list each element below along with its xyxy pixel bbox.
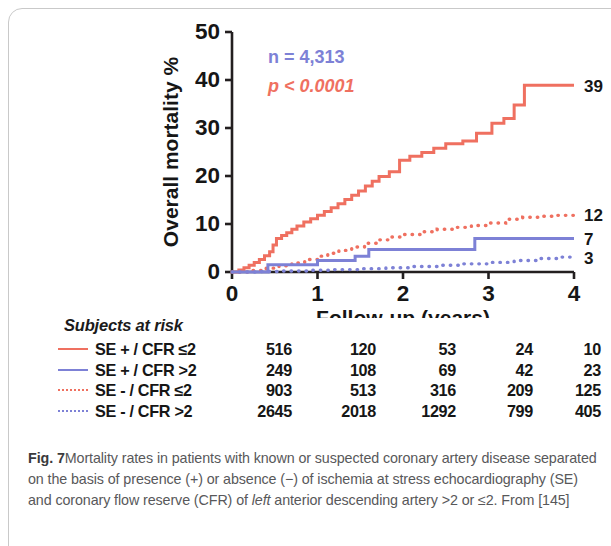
x-axis-tick-label: 1 bbox=[311, 281, 324, 306]
y-axis-tick-label: 30 bbox=[195, 115, 220, 140]
risk-row-value: 2018 bbox=[316, 402, 376, 421]
risk-row-line-swatch bbox=[58, 348, 88, 350]
subjects-at-risk-table: Subjects at risk SE + / CFR ≤25161205324… bbox=[0, 316, 611, 428]
risk-table-row: SE + / CFR >2249108694223 bbox=[0, 361, 611, 382]
risk-row-value: 209 bbox=[473, 381, 533, 400]
y-axis-tick-label: 0 bbox=[207, 259, 220, 284]
annotation-sample-size: n = 4,313 bbox=[268, 47, 345, 67]
risk-row-value: 23 bbox=[541, 361, 601, 380]
x-axis-tick-label: 0 bbox=[226, 281, 239, 306]
risk-table-title: Subjects at risk bbox=[64, 316, 183, 335]
series-end-label: 39 bbox=[584, 77, 603, 96]
risk-table-row: SE - / CFR ≤2903513316209125 bbox=[0, 381, 611, 402]
x-axis-tick-label: 3 bbox=[482, 281, 495, 306]
risk-row-value: 42 bbox=[473, 361, 533, 380]
risk-row-value: 69 bbox=[396, 361, 456, 380]
risk-row-value: 125 bbox=[541, 381, 601, 400]
risk-row-value: 513 bbox=[316, 381, 376, 400]
risk-row-value: 120 bbox=[316, 340, 376, 359]
y-axis-tick-label: 50 bbox=[195, 19, 220, 44]
y-axis-tick-label: 20 bbox=[195, 163, 220, 188]
risk-row-value: 516 bbox=[232, 340, 292, 359]
risk-row-label: SE - / CFR ≤2 bbox=[95, 381, 192, 400]
figure-card: 0102030405001234Follow-up (years)Overall… bbox=[0, 0, 611, 546]
series-line bbox=[232, 238, 574, 272]
risk-row-value: 2645 bbox=[232, 402, 292, 421]
risk-row-value: 24 bbox=[473, 340, 533, 359]
risk-row-label: SE + / CFR >2 bbox=[95, 361, 196, 380]
risk-table-rows: SE + / CFR ≤2516120532410SE + / CFR >224… bbox=[0, 340, 611, 422]
y-axis-tick-label: 10 bbox=[195, 211, 220, 236]
series-line bbox=[232, 85, 574, 272]
y-axis-title: Overall mortality % bbox=[159, 57, 182, 248]
y-axis-tick-label: 40 bbox=[195, 67, 220, 92]
risk-table-row: SE - / CFR >2264520181292799405 bbox=[0, 402, 611, 423]
series-end-label: 12 bbox=[584, 206, 603, 225]
risk-row-value: 903 bbox=[232, 381, 292, 400]
chart-svg: 0102030405001234Follow-up (years)Overall… bbox=[0, 0, 611, 318]
figure-label: Fig. 7 bbox=[28, 450, 65, 466]
risk-row-value: 10 bbox=[541, 340, 601, 359]
series-end-label: 7 bbox=[584, 230, 593, 249]
risk-row-value: 799 bbox=[473, 402, 533, 421]
risk-row-value: 405 bbox=[541, 402, 601, 421]
caption-text-part2: anterior descending artery >2 or ≤2. Fro… bbox=[270, 492, 569, 508]
x-axis-tick-label: 2 bbox=[397, 281, 410, 306]
risk-row-value: 108 bbox=[316, 361, 376, 380]
risk-row-label: SE - / CFR >2 bbox=[95, 402, 192, 421]
risk-row-value: 316 bbox=[396, 381, 456, 400]
kaplan-meier-chart: 0102030405001234Follow-up (years)Overall… bbox=[0, 0, 611, 318]
series-end-label: 3 bbox=[584, 249, 593, 268]
risk-row-label: SE + / CFR ≤2 bbox=[95, 340, 196, 359]
risk-row-value: 249 bbox=[232, 361, 292, 380]
caption-emphasis: left bbox=[252, 492, 271, 508]
figure-caption: Fig. 7Mortality rates in patients with k… bbox=[28, 448, 600, 511]
risk-row-value: 1292 bbox=[396, 402, 456, 421]
annotation-p-value: p < 0.0001 bbox=[267, 76, 355, 96]
risk-row-line-swatch bbox=[58, 369, 88, 371]
x-axis-tick-label: 4 bbox=[568, 281, 581, 306]
risk-table-row: SE + / CFR ≤2516120532410 bbox=[0, 340, 611, 361]
risk-row-line-swatch bbox=[58, 389, 88, 391]
risk-row-value: 53 bbox=[396, 340, 456, 359]
risk-row-line-swatch bbox=[58, 410, 88, 412]
